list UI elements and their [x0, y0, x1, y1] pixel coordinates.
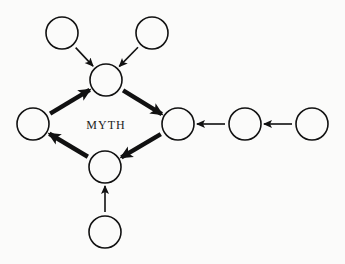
edge-arrow-right-to-bottom-center: [121, 134, 160, 157]
node-top-right: [136, 17, 168, 49]
node-bottom: [89, 216, 121, 248]
node-right-2: [229, 108, 261, 140]
myth-cycle-diagram: MYTH: [0, 0, 345, 264]
edge-arrow-bottom-center-to-left: [49, 134, 88, 157]
node-top-left: [46, 17, 78, 49]
edge-arrow-left-to-top-center: [50, 90, 90, 114]
node-left: [17, 108, 49, 140]
node-bottom-center: [89, 151, 121, 183]
node-right: [162, 108, 194, 140]
edge-arrow-top-center-to-right: [123, 90, 162, 114]
edge-arrow-top-left-to-top-center: [76, 48, 93, 67]
edge-arrow-top-right-to-top-center: [119, 47, 138, 66]
node-top-center: [90, 64, 122, 96]
center-label: MYTH: [86, 118, 125, 132]
node-right-3: [296, 108, 328, 140]
